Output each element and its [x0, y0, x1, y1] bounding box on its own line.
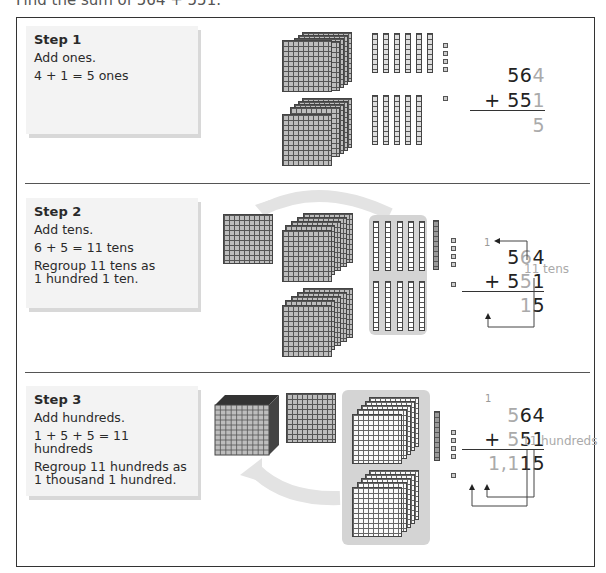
regroup-arrow-lines — [0, 0, 606, 573]
